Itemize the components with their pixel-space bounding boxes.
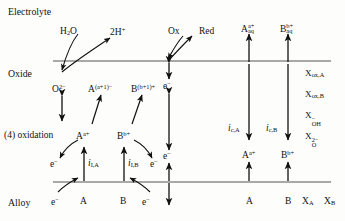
oxidation-step-note: (4) oxidation [4,131,53,141]
species-electron-alloy-left: e− [51,197,59,207]
arrow-alloy-electron-right [130,178,150,192]
electron-left-charge: − [54,158,58,165]
species-a-cation-transport: Aa+ [242,150,255,160]
species-alloy-a-left: A [80,197,87,207]
x-ox-b-subscript: ox,B [312,92,324,99]
species-alloy-b-right: B [285,197,291,207]
current-ionic-b: iI,B [128,159,139,169]
species-b-cation-transport: Bb+ [281,150,294,160]
b-aq-phase: aq [286,28,292,34]
a-cation-oxide-charge: a+ [83,130,89,137]
species-b-interstitial: B(b+1)+ [131,84,155,94]
x-ox-a-base: X [305,68,312,78]
x-o-base: X [305,131,312,141]
zone-label-alloy: Alloy [8,198,30,208]
current-cation-a-subscript: c,A [231,126,240,133]
electron-lower-charge: − [167,150,171,157]
x-ox-b-base: X [305,89,312,99]
species-a-interstitial: A(a+1)− [88,84,112,94]
species-reductant: Red [199,27,214,37]
label-x-ox-a: Xox,A [305,69,324,79]
current-cation-b: ic,B [266,124,277,134]
electron-right-charge: − [154,158,158,165]
species-electron-right: e− [150,159,158,169]
current-cation-a: ic,A [228,124,240,134]
label-x-o: XO2− [305,132,312,141]
label-mole-fraction-b: XB [324,197,335,207]
electron-alloy-right-charge: − [146,196,150,203]
oxide-ion-base: O [52,84,59,94]
zone-label-oxide: Oxide [8,69,32,79]
species-electron-left: e− [50,159,58,169]
water-element: H [60,26,67,36]
electron-alloy-left-charge: − [55,196,59,203]
current-ionic-a: iI,A [88,159,99,169]
zone-label-electrolyte: Electrolyte [8,7,51,17]
proton-base: 2H [110,27,122,37]
species-electron-lower: e− [163,151,171,161]
oxide-ion-charge: 2− [59,83,66,90]
a-interstitial-charge: (a+1)− [95,83,113,90]
label-x-oh: XOH− [305,111,312,120]
a-interstitial-base: A [88,84,95,94]
current-ionic-a-subscript: I,A [91,161,99,168]
arrow-oxide-to-protons [62,38,110,72]
arrow-b-to-electron-right [134,140,152,158]
arrow-b-interstitial [132,95,142,124]
a-cation-transport-base: A [242,150,249,160]
b-cation-transport-charge: b+ [287,149,294,156]
arrow-water-to-oxide [62,34,78,70]
proton-charge: + [122,26,126,33]
species-b-cation-oxide: Bb+ [117,131,130,141]
mole-fraction-a-subscript: A [309,199,314,206]
mole-fraction-b-base: X [324,196,331,206]
b-cation-oxide-charge: b+ [123,130,130,137]
b-interstitial-charge: (b+1)+ [137,83,155,90]
x-ox-a-subscript: ox,A [312,71,325,78]
species-protons: 2H+ [110,27,125,37]
species-oxidant: Ox [168,27,180,37]
a-aq-phase: aq [248,28,254,34]
species-electron-alloy-right: e− [142,197,150,207]
x-oh-base: X [305,110,312,120]
label-mole-fraction-a: XA [302,197,314,207]
species-a-cation-oxide: Aa+ [76,131,89,141]
electron-upper-charge: − [167,80,171,87]
current-cation-b-subscript: c,B [269,126,278,133]
mole-fraction-a-base: X [302,196,309,206]
a-aq-base: A [241,24,248,34]
species-electron-upper: e− [163,81,171,91]
species-alloy-a-right: A [246,197,253,207]
arrow-surface-to-red [170,36,192,59]
a-cation-transport-charge: a+ [249,149,255,156]
a-cation-oxide-base: A [76,131,83,141]
species-b-aqueous: Bb+aq [280,25,286,35]
species-oxide-ion: O2− [52,84,66,94]
label-x-ox-b: Xox,B [305,90,324,100]
diagram-canvas: Electrolyte Oxide Alloy H2O 2H+ Ox Red A… [0,0,345,221]
x-oh-charge: − [312,116,316,122]
current-ionic-b-subscript: I,B [131,161,139,168]
species-water: H2O [60,27,77,37]
x-o-charge: 2− [312,137,319,143]
arrow-a-interstitial [92,95,101,124]
arrow-a-to-electron-left [60,140,78,158]
species-alloy-b-left: B [120,197,126,207]
arrow-alloy-electron-left [58,178,78,192]
water-oxygen: O [70,26,77,36]
species-a-aqueous: Aa+aq [241,25,248,35]
mole-fraction-b-subscript: B [331,199,335,206]
